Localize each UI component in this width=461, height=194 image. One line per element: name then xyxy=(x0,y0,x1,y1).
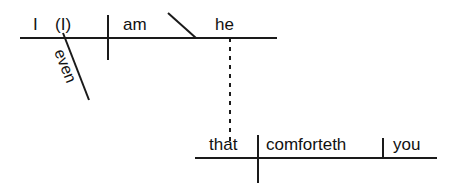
predicate-nominative-slant xyxy=(168,13,196,38)
word-verb: am xyxy=(123,16,147,33)
word-subject: I xyxy=(33,16,38,33)
word-subordinate-verb: comforteth xyxy=(266,136,346,153)
word-predicate-nominative: he xyxy=(215,16,234,33)
word-relative-pronoun: that xyxy=(209,136,237,153)
sentence-diagram: I (I) am he even that comforteth you xyxy=(0,0,461,194)
word-direct-object: you xyxy=(393,136,420,153)
word-subject-appositive: (I) xyxy=(55,16,71,33)
